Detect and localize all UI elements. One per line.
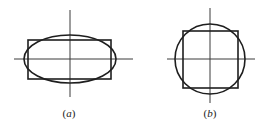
panel-a-label: (a) <box>63 107 76 120</box>
panel-a: (a) <box>14 10 133 120</box>
panel-b: (b) <box>167 8 255 120</box>
panel-b-label: (b) <box>204 107 217 120</box>
figure: (a) (b) <box>0 0 267 126</box>
